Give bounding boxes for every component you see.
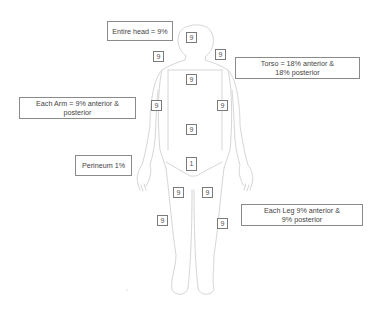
leg-label: Each Leg 9% anterior & 9% posterior	[241, 204, 363, 226]
left-leg-percent-box: 9	[157, 215, 168, 226]
stray-dot	[126, 289, 127, 290]
left-arm-percent-box: 9	[151, 100, 162, 111]
left-shoulder-percent-box: 9	[153, 51, 164, 62]
perineum-label: Perineum 1%	[75, 155, 132, 176]
chest-percent-box: 9	[186, 74, 197, 85]
abdomen-percent-box: 9	[186, 124, 197, 135]
torso-label: Torso = 18% anterior & 18% posterior	[235, 57, 360, 79]
perineum-percent-box: 1	[186, 157, 197, 171]
right-shoulder-percent-box: 9	[215, 49, 226, 60]
arm-label: Each Arm = 9% anterior & posterior	[19, 97, 136, 119]
head-label: Entire head = 9%	[107, 21, 173, 41]
right-arm-percent-box: 9	[217, 100, 228, 111]
head-percent-box: 9	[186, 32, 197, 43]
left-thigh-percent-box: 9	[173, 187, 184, 198]
right-leg-percent-box: 9	[217, 218, 228, 229]
torso-outline	[158, 70, 166, 168]
right-thigh-percent-box: 9	[202, 187, 213, 198]
